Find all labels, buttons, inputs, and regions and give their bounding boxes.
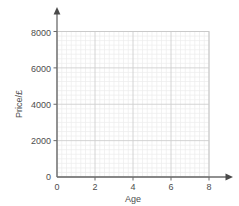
price-vs-age-grid-chart: 0 2 4 6 8 0 2000 4000 6000 8000 Age Pric… [0,0,239,206]
y-tick-label: 2000 [31,136,51,146]
y-tick-label: 8000 [31,28,51,38]
x-tick-label: 8 [206,182,211,192]
x-tick-label: 4 [130,182,135,192]
y-tick-label: 4000 [31,100,51,110]
chart-container: 0 2 4 6 8 0 2000 4000 6000 8000 Age Pric… [0,0,239,206]
x-tick-label: 6 [168,182,173,192]
x-axis-title: Age [125,194,141,204]
y-tick-label: 6000 [31,64,51,74]
y-axis-title: Price/£ [14,90,24,118]
x-tick-label: 2 [92,182,97,192]
y-tick-label: 0 [46,172,51,182]
x-tick-label: 0 [54,182,59,192]
